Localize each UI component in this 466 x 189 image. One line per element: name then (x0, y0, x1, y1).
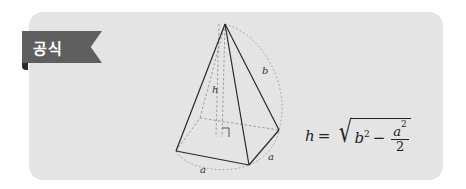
square-root: √ b2 − a2 2 (336, 118, 411, 154)
label-h: h (212, 84, 218, 95)
label-b: b (262, 65, 268, 76)
height-formula: h = √ b2 − a2 2 (305, 118, 411, 154)
hidden-edges (176, 24, 279, 151)
label-a-front: a (200, 164, 206, 175)
fraction: a2 2 (391, 121, 409, 154)
fraction-numerator: a2 (391, 121, 409, 140)
formula-lhs: h (305, 127, 315, 145)
formula-equals: = (318, 127, 331, 145)
fraction-denominator: 2 (396, 140, 404, 154)
radical-icon: √ (339, 118, 352, 154)
formula-minus: − (373, 129, 386, 147)
pyramid-diagram: h b a a (0, 0, 466, 189)
label-a-right: a (268, 151, 274, 162)
formula-a: a (393, 124, 401, 139)
radicand: b2 − a2 2 (352, 118, 410, 154)
formula-a-exponent: 2 (401, 119, 407, 129)
formula-b-exponent: 2 (364, 129, 370, 139)
visible-edges (176, 24, 279, 165)
right-angle-icon (222, 128, 229, 137)
formula-b: b (354, 129, 364, 147)
